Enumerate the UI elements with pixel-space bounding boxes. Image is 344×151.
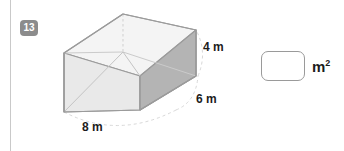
height-dimension-arc <box>196 30 203 76</box>
width-dimension-arc <box>64 110 176 126</box>
unit-base: m <box>312 58 325 75</box>
rectangular-prism-figure <box>0 0 260 151</box>
height-dimension-label: 4 m <box>203 40 224 54</box>
depth-dimension-label: 6 m <box>196 92 217 106</box>
worksheet-problem-panel: 13 4 m 6 m 8 m <box>0 0 344 151</box>
answer-unit-label: m2 <box>312 59 330 74</box>
answer-input[interactable] <box>261 51 305 81</box>
answer-row: m2 <box>261 51 330 81</box>
width-dimension-label: 8 m <box>82 120 103 134</box>
unit-exponent: 2 <box>325 58 330 68</box>
